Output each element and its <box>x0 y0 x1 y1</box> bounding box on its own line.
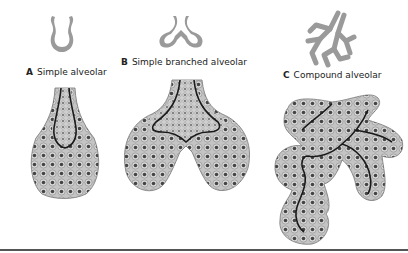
panel-c-label: CCompound alveolar <box>283 70 381 80</box>
panel-a-label: ASimple alveolar <box>26 67 107 77</box>
panel-b-letter: B <box>121 57 128 67</box>
panel-a-letter: A <box>26 67 33 77</box>
panel-b-label: BSimple branched alveolar <box>121 57 247 67</box>
panel-b-title: Simple branched alveolar <box>132 57 247 67</box>
panel-c-letter: C <box>283 70 290 80</box>
bottom-rule <box>0 249 408 251</box>
panel-b-schematic-icon <box>153 14 209 50</box>
panel-a-schematic-icon <box>46 14 78 54</box>
panel-b-histology <box>122 80 252 200</box>
panel-a-histology <box>30 88 100 198</box>
panel-c-title: Compound alveolar <box>294 70 382 80</box>
panel-a-title: Simple alveolar <box>37 67 107 77</box>
panel-c-histology <box>272 90 406 248</box>
panel-c-schematic-icon <box>302 9 360 69</box>
